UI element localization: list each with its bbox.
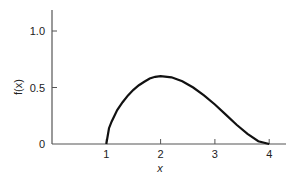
- y-tick-label: 0: [39, 138, 45, 150]
- x-axis-label: x: [156, 162, 163, 174]
- x-tick-label: 1: [103, 148, 109, 160]
- y-tick-label: 1.0: [30, 25, 45, 37]
- y-axis-label: f(x): [12, 79, 24, 95]
- axes: 123400.51.0: [30, 10, 286, 160]
- y-tick-label: 0.5: [30, 82, 45, 94]
- curve-f-of-x: [106, 76, 269, 144]
- x-tick-label: 3: [212, 148, 218, 160]
- chart: 123400.51.0 f(x) x: [0, 0, 303, 180]
- x-tick-label: 2: [158, 148, 164, 160]
- x-tick-label: 4: [266, 148, 272, 160]
